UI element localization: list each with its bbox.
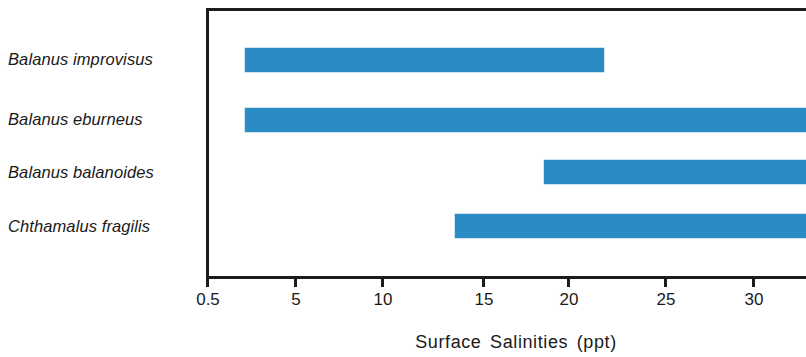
- x-tick-label-2: 10: [374, 290, 393, 310]
- x-tick-0: [206, 276, 209, 287]
- x-tick-label-3: 15: [475, 290, 494, 310]
- x-tick-label-5: 25: [657, 290, 676, 310]
- x-tick-label-6: 30: [745, 290, 764, 310]
- x-tick-label-0: 0.5: [196, 290, 220, 310]
- x-tick-1: [294, 276, 297, 287]
- x-tick-3: [482, 276, 485, 287]
- range-bar-chthamalus-fragilis: [455, 214, 806, 238]
- range-bar-balanus-eburneus: [245, 108, 806, 132]
- x-tick-6: [752, 276, 755, 287]
- range-bar-balanus-balanoides: [544, 160, 806, 184]
- x-tick-2: [381, 276, 384, 287]
- x-tick-4: [567, 276, 570, 287]
- x-tick-label-1: 5: [291, 290, 300, 310]
- range-bar-balanus-improvisus: [245, 48, 604, 72]
- x-tick-label-4: 20: [560, 290, 579, 310]
- x-tick-5: [664, 276, 667, 287]
- x-axis-title: Surface Salinities (ppt): [240, 332, 792, 353]
